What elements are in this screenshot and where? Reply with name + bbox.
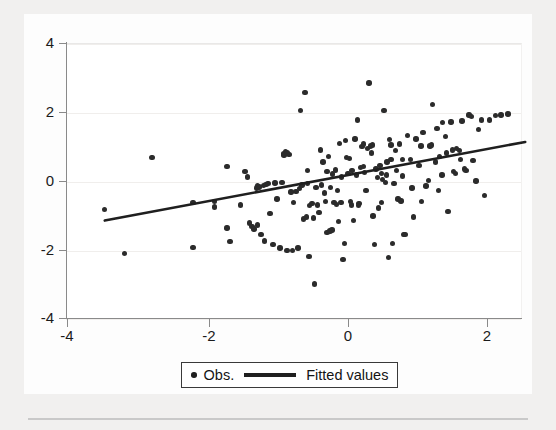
scatter-point xyxy=(448,119,453,124)
x-tick-mark-2 xyxy=(487,319,488,327)
scatter-point xyxy=(311,215,316,220)
scatter-point xyxy=(423,183,428,188)
x-tick-label-m2: -2 xyxy=(189,328,229,343)
scatter-point xyxy=(363,188,368,193)
scatter-point xyxy=(391,181,396,186)
scatter-point xyxy=(352,136,357,141)
scatter-point xyxy=(397,141,402,146)
scatter-point xyxy=(329,227,334,232)
plot-panel xyxy=(66,43,522,319)
scatter-point xyxy=(416,163,421,168)
scatter-point xyxy=(284,150,289,155)
scatter-point xyxy=(381,108,386,113)
y-tick-label-4: 4 xyxy=(26,35,54,50)
y-tick-label-2: 2 xyxy=(26,104,54,119)
x-axis-spine xyxy=(66,318,522,319)
gridline-y2 xyxy=(66,113,521,114)
x-tick-label-0: 0 xyxy=(328,328,368,343)
scatter-point xyxy=(339,174,344,179)
gridline-y0 xyxy=(66,182,521,183)
scatter-point xyxy=(418,143,423,148)
chart-legend[interactable]: Obs. Fitted values xyxy=(181,362,398,388)
y-tick-label-m4: -4 xyxy=(26,310,54,325)
scatter-point xyxy=(258,232,263,237)
scatter-point xyxy=(272,180,277,185)
scatter-point xyxy=(409,185,414,190)
y-tick-label-wrap-4: 4 xyxy=(20,35,54,51)
y-tick-label-0: 0 xyxy=(26,173,54,188)
scatter-point xyxy=(324,169,329,174)
scatter-point xyxy=(377,163,382,168)
scatter-point xyxy=(398,198,403,203)
scatter-point xyxy=(450,147,455,152)
scatter-point xyxy=(459,118,464,123)
scatter-point xyxy=(388,142,393,147)
y-tick-label-wrap-m4: -4 xyxy=(20,310,54,326)
scatter-point xyxy=(379,200,384,205)
scatter-point xyxy=(306,254,311,259)
scatter-point xyxy=(277,245,282,250)
scatter-point xyxy=(411,214,416,219)
scatter-point xyxy=(149,155,154,160)
scatter-point xyxy=(384,172,389,177)
scatter-point xyxy=(122,251,127,256)
scatter-point xyxy=(245,174,250,179)
scatter-point xyxy=(316,210,321,215)
y-tick-label-wrap-0: 0 xyxy=(20,173,54,189)
scatter-point xyxy=(433,159,438,164)
scatter-point xyxy=(370,142,375,147)
scatter-point xyxy=(274,196,279,201)
x-tick-mark-m2 xyxy=(209,319,210,327)
bottom-separator-rule xyxy=(28,418,528,420)
scatter-point xyxy=(309,201,314,206)
scatter-point xyxy=(227,239,232,244)
scatter-point xyxy=(354,172,359,177)
scatter-point xyxy=(322,190,327,195)
legend-fitted-line-icon xyxy=(244,373,296,376)
scatter-point xyxy=(386,255,391,260)
legend-obs-label: Obs. xyxy=(204,368,235,383)
scatter-point xyxy=(315,202,320,207)
y-tick-label-wrap-m2: -2 xyxy=(20,242,54,258)
scatter-point xyxy=(369,150,374,155)
scatter-point xyxy=(320,159,325,164)
scatter-point xyxy=(238,202,243,207)
scatter-point xyxy=(444,150,449,155)
y-tick-mark-4 xyxy=(59,43,67,44)
scatter-point xyxy=(355,117,360,122)
x-tick-mark-0 xyxy=(348,319,349,327)
scatter-point xyxy=(349,202,354,207)
scatter-point xyxy=(255,222,260,227)
x-tick-mark-m4 xyxy=(67,319,68,327)
scatter-point xyxy=(370,213,375,218)
scatter-point xyxy=(270,242,275,247)
y-tick-mark-0 xyxy=(59,181,67,182)
scatter-point xyxy=(443,134,448,139)
scatter-point xyxy=(479,117,484,122)
scatter-point xyxy=(190,200,195,205)
x-tick-label-2: 2 xyxy=(467,328,507,343)
scatter-point xyxy=(304,214,309,219)
scatter-point xyxy=(212,204,217,209)
y-tick-mark-2 xyxy=(59,112,67,113)
y-tick-label-m2: -2 xyxy=(26,242,54,257)
scatter-point xyxy=(302,90,307,95)
scatter-point xyxy=(338,200,343,205)
legend-obs-marker-icon xyxy=(191,372,197,378)
scatter-point xyxy=(420,130,425,135)
y-tick-mark-m4 xyxy=(59,318,67,319)
scatter-point xyxy=(224,225,229,230)
scatter-point xyxy=(400,173,405,178)
scatter-point xyxy=(319,182,324,187)
scatter-point xyxy=(333,167,338,172)
scatter-point xyxy=(262,238,267,243)
scatter-point xyxy=(313,185,318,190)
scatter-point xyxy=(445,209,450,214)
scatter-point xyxy=(284,248,289,253)
scatter-point xyxy=(190,245,195,250)
scatter-point xyxy=(470,158,475,163)
scatter-point xyxy=(498,112,503,117)
scatter-point xyxy=(295,245,300,250)
scatter-point xyxy=(482,193,487,198)
scatter-point xyxy=(343,138,348,143)
